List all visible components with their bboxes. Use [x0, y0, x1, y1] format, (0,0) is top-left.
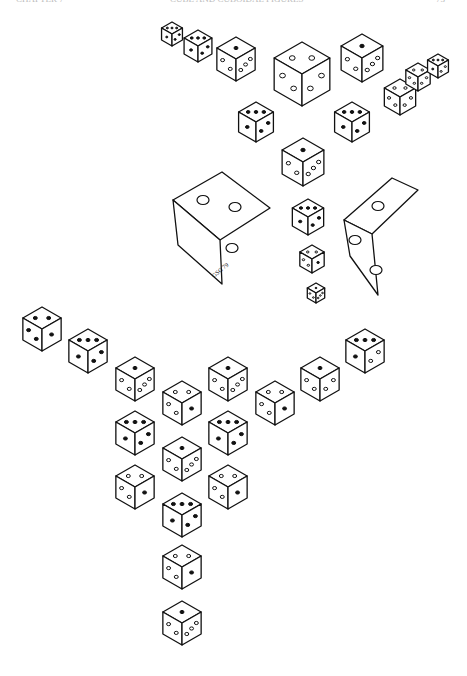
die-icon: [209, 465, 247, 509]
die-icon: [282, 138, 324, 186]
die-icon: [406, 63, 430, 91]
die-icon: [300, 245, 324, 273]
die-icon: [341, 34, 383, 82]
die-icon: [116, 411, 154, 455]
die-icon: [292, 199, 323, 235]
die-icon: [307, 283, 324, 303]
dice-illustration: GSG 79: [0, 0, 467, 676]
die-icon: [163, 437, 201, 481]
die-icon: [163, 545, 201, 589]
die-icon: [256, 381, 294, 425]
die-icon: [184, 30, 212, 62]
die-icon: [217, 37, 255, 81]
die-icon: [163, 381, 201, 425]
die-icon: [163, 601, 201, 645]
die-icon: [209, 357, 247, 401]
die-icon: [116, 357, 154, 401]
die-icon: [301, 357, 339, 401]
die-icon: [274, 42, 330, 106]
die-icon: [335, 102, 370, 142]
die-icon: [239, 102, 274, 142]
die-icon: [69, 329, 107, 373]
die-icon: [209, 411, 247, 455]
die-icon: [346, 329, 384, 373]
illustration-page: CHAPTER 7 CUBE AND CUBOIDAL FIGURES 73 G…: [0, 0, 467, 676]
die-icon: [428, 54, 449, 78]
large-die-icon: [344, 178, 418, 295]
die-icon: [23, 307, 61, 351]
die-icon: [162, 22, 183, 46]
die-icon: [116, 465, 154, 509]
die-icon: [163, 493, 201, 537]
